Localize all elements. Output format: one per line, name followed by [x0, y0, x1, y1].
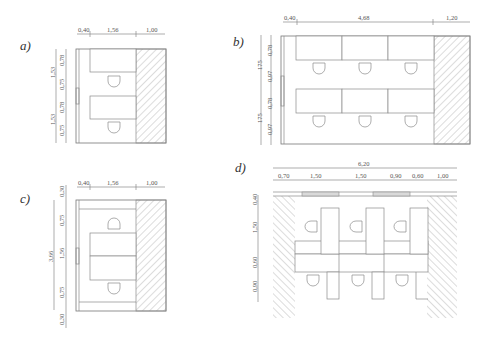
hatched-zone: [273, 196, 295, 318]
panel-b: b) 0,40 4,68 1,20 175 175 0,78 0,97 0,78…: [233, 14, 470, 145]
chair-icon: [108, 122, 120, 133]
dim-label: 1,50: [310, 172, 321, 179]
dim-label: 1,50: [355, 172, 366, 179]
chair-icon: [350, 221, 362, 232]
panel-d: d) 6,20 0,70 1,50 1,50 0,90 0,60 1,00 0,…: [235, 160, 457, 318]
chair-icon: [359, 116, 371, 127]
desk: [342, 36, 388, 60]
chair-icon: [396, 275, 408, 286]
dim-label: 0,75: [58, 79, 65, 90]
chair-icon: [405, 116, 417, 127]
panel-d-label: d): [235, 160, 246, 175]
dim-label: 0,40: [251, 194, 258, 205]
dim-label: 1,50: [251, 222, 258, 233]
dim-label: 0,30: [58, 314, 65, 325]
panel-c: c) 0,40 1,56 1,00 3,66 0,30 0,75 1,56 0,…: [20, 179, 166, 328]
dim-label: 4,68: [358, 14, 369, 21]
chair-icon: [108, 76, 120, 87]
dim-label: 1,56: [107, 26, 119, 33]
desk: [342, 89, 388, 113]
dim-label: 1,56: [107, 179, 119, 186]
dim-label: 0,90: [390, 172, 401, 179]
desk: [416, 272, 428, 299]
desk: [410, 208, 428, 254]
dim-label: 6,20: [358, 160, 369, 167]
desk: [327, 272, 339, 299]
desk: [90, 256, 136, 280]
panel-b-label: b): [233, 34, 244, 49]
dim-label: 1,56: [58, 247, 65, 259]
dim-label: 0,30: [58, 186, 65, 197]
hatched-zone: [434, 36, 470, 144]
chair-icon: [108, 218, 120, 229]
window: [302, 192, 339, 196]
dim-label: 1,53: [49, 114, 56, 125]
hatched-zone: [136, 200, 166, 311]
dim-label: 0,97: [266, 123, 273, 135]
dim-label: 1,00: [146, 179, 157, 186]
dim-label: 0,75: [58, 287, 65, 298]
desk: [388, 89, 434, 113]
desk: [295, 254, 428, 272]
panel-c-label: c): [20, 191, 30, 206]
desk: [295, 241, 428, 254]
panel-a: a) 0,40 1,56 1,00 1,53 1,53 0,78 0,75 0,…: [20, 26, 166, 143]
office-layout-diagram: a) 0,40 1,56 1,00 1,53 1,53 0,78 0,75 0,…: [0, 0, 485, 344]
dim-label: 1,20: [446, 14, 457, 21]
dim-label: 0,78: [58, 55, 65, 66]
dim-label: 0,40: [78, 179, 89, 186]
chair-icon: [108, 283, 120, 294]
dim-label: 0,78: [266, 98, 273, 109]
dim-label: 0,97: [266, 70, 273, 82]
dim-label: 0,75: [58, 215, 65, 226]
dim-label: 0,78: [266, 45, 273, 56]
dim-label: 0,90: [251, 281, 258, 292]
chair-icon: [405, 63, 417, 74]
dim-label: 0,70: [278, 172, 289, 179]
window: [76, 248, 79, 264]
dim-label: 175: [256, 60, 263, 70]
dim-label: 1,00: [437, 172, 448, 179]
dim-label: 0,78: [58, 102, 65, 113]
chair-icon: [305, 221, 317, 232]
dim-label: 0,60: [251, 257, 258, 268]
dim-label: 1,00: [146, 26, 157, 33]
hatched-zone: [427, 196, 457, 318]
chair-icon: [359, 63, 371, 74]
chair-icon: [394, 221, 406, 232]
panel-a-label: a): [20, 38, 31, 53]
chair-icon: [352, 275, 364, 286]
desk: [90, 233, 136, 256]
dim-label: 3,66: [47, 250, 54, 262]
hatched-zone: [136, 49, 166, 143]
desk: [372, 272, 384, 299]
dim-label: 0,40: [78, 26, 89, 33]
dim-label: 175: [256, 113, 263, 123]
desk: [296, 89, 342, 113]
dim-label: 0,40: [284, 14, 295, 21]
window: [373, 192, 410, 196]
dim-label: 1,53: [49, 67, 56, 78]
chair-icon: [307, 275, 319, 286]
desk: [90, 49, 136, 72]
desk: [321, 208, 339, 254]
chair-icon: [313, 116, 325, 127]
desk: [296, 36, 342, 60]
dim-label: 0,75: [58, 125, 65, 136]
desk: [366, 208, 384, 254]
desk: [90, 96, 136, 119]
window: [281, 76, 284, 106]
chair-icon: [313, 63, 325, 74]
desk: [388, 36, 434, 60]
window: [76, 88, 79, 104]
dim-label: 0,60: [412, 172, 423, 179]
